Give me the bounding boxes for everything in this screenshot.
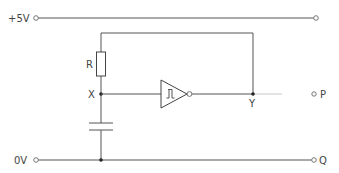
node-x-label: X [88, 89, 95, 100]
supply-terminal-right [314, 16, 319, 21]
schmitt-inverter [161, 80, 192, 108]
supply-label: +5V [8, 13, 30, 24]
circuit-diagram: +5V R X Y P 0V Q [0, 0, 339, 173]
resistor-label: R [86, 59, 93, 70]
supply-terminal-left [34, 16, 39, 21]
node-y-junction [251, 92, 255, 96]
node-y-label: Y [248, 98, 256, 109]
terminal-p [312, 92, 316, 96]
inverter-triangle [161, 80, 187, 108]
ground-label: 0V [14, 155, 27, 166]
terminal-q [312, 158, 317, 163]
terminal-q-label: Q [319, 155, 327, 166]
inverter-bubble [187, 92, 192, 97]
terminal-p-label: P [320, 89, 326, 100]
ground-junction [99, 158, 103, 162]
ground-terminal-left [34, 158, 39, 163]
feedback-wire [101, 33, 253, 94]
resistor [97, 52, 106, 76]
